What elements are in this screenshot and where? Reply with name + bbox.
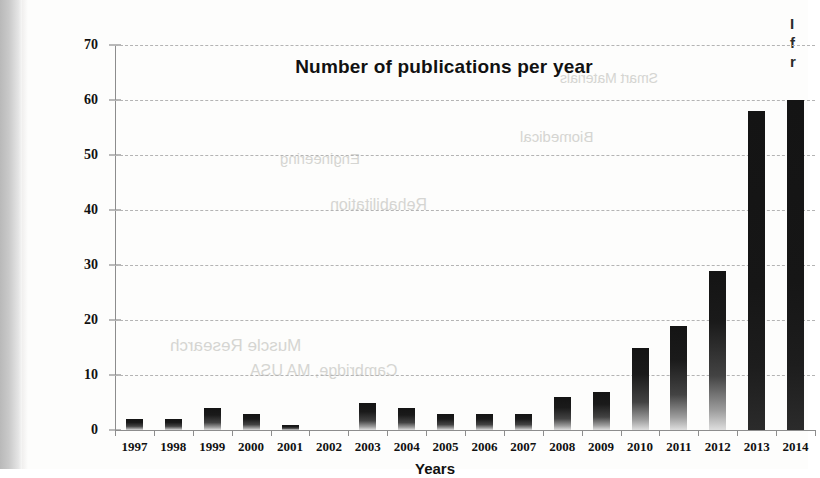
- x-tick-mark-2014: [776, 430, 777, 436]
- x-tick-label-2009: 2009: [588, 439, 614, 455]
- x-tick-label-2011: 2011: [666, 439, 691, 455]
- x-tick-mark-2005: [426, 430, 427, 436]
- bar-2003: [359, 403, 376, 431]
- bar-2006: [476, 414, 493, 431]
- bar-2000: [243, 414, 260, 431]
- x-tick-mark-2007: [504, 430, 505, 436]
- bar-2012: [709, 271, 726, 431]
- x-tick-mark-1998: [154, 430, 155, 436]
- x-tick-mark-end: [815, 430, 816, 436]
- bar-2005: [437, 414, 454, 431]
- bar-2010: [632, 348, 649, 431]
- gridline-30: [115, 265, 815, 266]
- x-tick-label-2012: 2012: [705, 439, 731, 455]
- gridline-70: [115, 45, 815, 46]
- bar-1998: [165, 419, 182, 430]
- x-tick-label-2001: 2001: [277, 439, 303, 455]
- x-tick-label-2006: 2006: [471, 439, 497, 455]
- x-tick-mark-2001: [271, 430, 272, 436]
- scan-gutter-edge: [22, 0, 28, 469]
- x-tick-mark-2004: [387, 430, 388, 436]
- x-tick-label-2013: 2013: [744, 439, 770, 455]
- bar-2011: [670, 326, 687, 431]
- x-tick-label-2007: 2007: [510, 439, 536, 455]
- x-tick-mark-1997: [115, 430, 116, 436]
- x-tick-mark-2003: [348, 430, 349, 436]
- x-tick-mark-2010: [621, 430, 622, 436]
- x-tick-mark-2000: [232, 430, 233, 436]
- x-tick-label-2003: 2003: [355, 439, 381, 455]
- x-axis-title: Years: [40, 460, 820, 477]
- bar-2004: [398, 408, 415, 430]
- x-tick-mark-2006: [465, 430, 466, 436]
- bar-2007: [515, 414, 532, 431]
- x-tick-label-1997: 1997: [121, 439, 147, 455]
- x-tick-label-2010: 2010: [627, 439, 653, 455]
- x-tick-mark-2009: [582, 430, 583, 436]
- x-tick-mark-2008: [543, 430, 544, 436]
- x-tick-label-1999: 1999: [199, 439, 225, 455]
- x-tick-label-2005: 2005: [433, 439, 459, 455]
- bar-1999: [204, 408, 221, 430]
- scan-gutter-shadow: [0, 0, 22, 469]
- x-tick-mark-2002: [309, 430, 310, 436]
- gridline-50: [115, 155, 815, 156]
- publications-per-year-bar-chart: Number of publications per year 01020304…: [40, 16, 820, 478]
- bar-2014: [787, 100, 804, 430]
- bar-1997: [126, 419, 143, 430]
- gridline-40: [115, 210, 815, 211]
- plot-area: [115, 45, 815, 430]
- x-tick-label-2004: 2004: [394, 439, 420, 455]
- bar-2008: [554, 397, 571, 430]
- x-tick-label-2014: 2014: [783, 439, 809, 455]
- x-tick-label-2002: 2002: [316, 439, 342, 455]
- bar-2009: [593, 392, 610, 431]
- gridline-60: [115, 100, 815, 101]
- x-tick-label-2008: 2008: [549, 439, 575, 455]
- x-tick-mark-2013: [737, 430, 738, 436]
- x-tick-mark-1999: [193, 430, 194, 436]
- bar-2013: [748, 111, 765, 430]
- x-tick-mark-2012: [698, 430, 699, 436]
- x-tick-mark-2011: [659, 430, 660, 436]
- x-tick-label-1998: 1998: [160, 439, 186, 455]
- x-tick-label-2000: 2000: [238, 439, 264, 455]
